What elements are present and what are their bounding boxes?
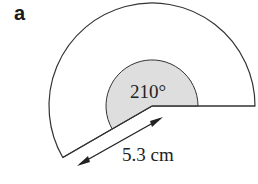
sector-diagram: 210° 5.3 cm xyxy=(0,0,258,184)
angle-label: 210° xyxy=(130,81,166,102)
radius-label: 5.3 cm xyxy=(122,144,174,165)
